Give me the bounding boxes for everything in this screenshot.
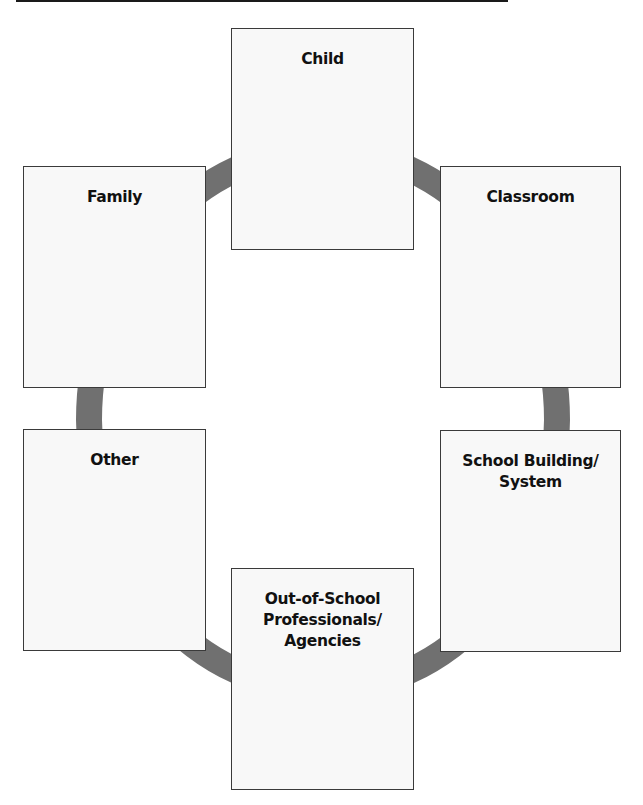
box-school-building-system-label: School Building/ System [441,451,620,493]
box-child: Child [231,28,414,250]
box-child-label: Child [232,49,413,70]
box-school-building-system: School Building/ System [440,430,621,652]
box-out-of-school-label: Out-of-School Professionals/ Agencies [232,589,413,652]
box-classroom-label: Classroom [441,187,620,208]
box-out-of-school-professionals-agencies: Out-of-School Professionals/ Agencies [231,568,414,790]
box-family: Family [23,166,206,388]
box-other-label: Other [24,450,205,471]
box-classroom: Classroom [440,166,621,388]
box-family-label: Family [24,187,205,208]
box-other: Other [23,429,206,651]
